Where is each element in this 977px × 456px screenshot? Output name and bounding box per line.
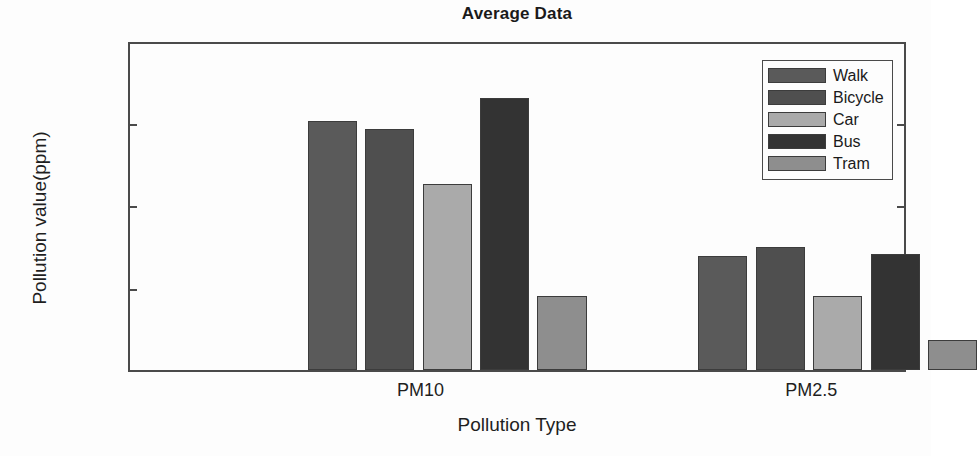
bar-bus-pm2-5	[871, 254, 920, 370]
legend-label: Car	[833, 112, 859, 128]
legend-swatch-car	[768, 112, 826, 127]
bar-tram-pm10	[537, 296, 586, 370]
legend-swatch-bicycle	[768, 90, 826, 105]
legend-item-walk[interactable]: Walk	[768, 65, 887, 86]
bar-bicycle-pm2-5	[756, 247, 805, 370]
legend-item-tram[interactable]: Tram	[768, 153, 887, 174]
bar-car-pm2-5	[813, 296, 862, 370]
bar-car-pm10	[423, 184, 472, 370]
bar-bicycle-pm10	[365, 129, 414, 370]
legend[interactable]: WalkBicycleCarBusTram	[762, 60, 893, 180]
bar-walk-pm2-5	[698, 256, 747, 370]
bar-bus-pm10	[480, 98, 529, 370]
legend-label: Walk	[833, 68, 868, 84]
y-axis-label: Pollution value(ppm)	[29, 68, 51, 368]
x-axis-tick-label: PM2.5	[785, 380, 837, 401]
legend-label: Bicycle	[833, 90, 884, 106]
bar-walk-pm10	[308, 121, 357, 370]
legend-swatch-walk	[768, 68, 826, 83]
x-axis-label: Pollution Type	[128, 414, 906, 436]
legend-label: Tram	[833, 156, 870, 172]
legend-item-bicycle[interactable]: Bicycle	[768, 87, 887, 108]
legend-swatch-tram	[768, 156, 826, 171]
x-axis-tick-label: PM10	[397, 380, 444, 401]
legend-item-bus[interactable]: Bus	[768, 131, 887, 152]
bar-tram-pm2-5	[928, 340, 977, 370]
legend-item-car[interactable]: Car	[768, 109, 887, 130]
chart-title: Average Data	[128, 4, 906, 24]
legend-swatch-bus	[768, 134, 826, 149]
legend-label: Bus	[833, 134, 861, 150]
